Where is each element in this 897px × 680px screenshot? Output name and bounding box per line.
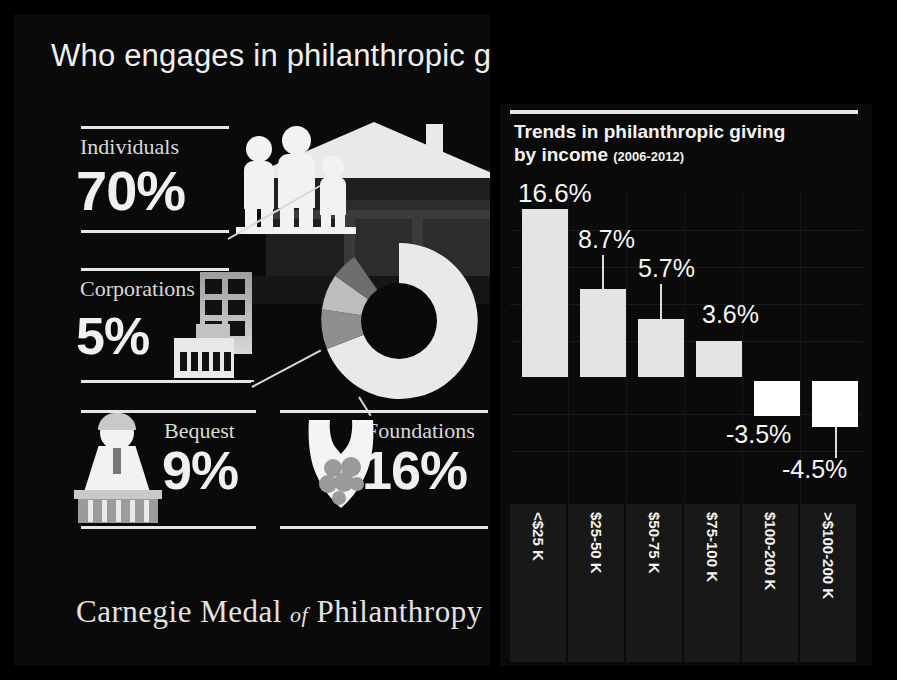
leader-line-gt-100-200k: [835, 426, 837, 458]
chart-title-line1: Trends in philanthropic giving: [514, 121, 785, 142]
left-panel: Who engages in philanthropic giving?: [14, 14, 490, 666]
infographic-canvas: Who engages in philanthropic giving?: [0, 0, 897, 680]
person-necktie: [113, 448, 121, 474]
bar-value-100-200k: -3.5%: [726, 420, 791, 449]
stat-value-bequest: 9%: [162, 439, 238, 501]
chart-title-line2: by income: [514, 144, 608, 165]
bar-value-gt-100-200k: -4.5%: [782, 455, 847, 484]
family-adult-right-leg-r: [299, 205, 313, 229]
divider-individuals-top: [81, 126, 229, 129]
building-door: [202, 352, 209, 371]
divider-chart-top: [510, 110, 858, 114]
podium-slat: [88, 500, 93, 522]
stat-label-individuals: Individuals: [80, 134, 179, 160]
brand-of: of: [290, 602, 308, 627]
building-window: [205, 300, 222, 315]
chart-panel: Trends in philanthropic givingby income …: [500, 104, 872, 666]
podium-slat: [130, 500, 135, 522]
donut-center-hole: [361, 283, 437, 359]
bar-75-100k: [696, 341, 742, 377]
vgridline: [742, 192, 743, 502]
leader-line-25-50k: [602, 255, 604, 291]
axis-label-50-75k: $50-75 K: [646, 512, 663, 574]
axis-label-gt-100-200k: >$100-200 K: [820, 512, 837, 599]
bar-lt-25k: [522, 209, 568, 377]
axis-cell-lt-25k: <$25 K: [510, 504, 568, 662]
podium-slat: [116, 500, 121, 522]
chart-title: Trends in philanthropic givingby income …: [514, 120, 854, 166]
bar-50-75k: [638, 319, 684, 377]
family-adult-left-head-icon: [246, 136, 272, 162]
family-ground-bar: [236, 227, 356, 234]
chart-period: (2006-2012): [613, 149, 684, 164]
axis-label-25-50k: $25-50 K: [588, 512, 605, 574]
bar-25-50k: [580, 289, 626, 377]
bar-gt-100-200k: [812, 381, 858, 427]
building-window: [228, 279, 245, 294]
bar-100-200k: [754, 381, 800, 416]
axis-label-lt-25k: <$25 K: [530, 512, 547, 561]
divider-corporations-top: [81, 268, 229, 271]
vgridline: [568, 192, 569, 502]
bar-chart-plot-area: 16.6% 8.7% 5.7% 3.6% -3.5% -4.5%: [510, 192, 862, 502]
divider-bequest-bottom: [81, 526, 256, 529]
axis-cell-gt-100-200k: >$100-200 K: [800, 504, 858, 662]
bar-value-lt-25k: 16.6%: [518, 178, 592, 209]
building-door: [213, 352, 220, 371]
axis-cell-25-50k: $25-50 K: [568, 504, 626, 662]
building-door: [191, 352, 198, 371]
brand-part2: Philanthropy: [316, 594, 482, 629]
stat-label-corporations: Corporations: [80, 276, 195, 302]
bar-value-75-100k: 3.6%: [702, 300, 759, 329]
family-adult-left-body-icon: [244, 161, 274, 209]
building-door: [180, 352, 187, 371]
bar-value-50-75k: 5.7%: [638, 254, 695, 283]
podium-slat: [144, 500, 149, 522]
house-chimney-icon: [426, 124, 443, 164]
gridline: [510, 414, 862, 415]
stat-value-foundations: 16%: [362, 439, 467, 501]
stat-value-corporations: 5%: [76, 306, 149, 366]
building-window: [228, 321, 245, 336]
building-window: [205, 279, 222, 294]
page-title: Who engages in philanthropic giving?: [51, 38, 490, 74]
podium-slat: [102, 500, 107, 522]
leader-line-50-75k: [660, 284, 662, 320]
podium-top: [74, 490, 162, 499]
family-adult-right-head-icon: [282, 126, 311, 155]
giving-sources-donut-chart: [317, 239, 481, 403]
chart-x-axis: <$25 K $25-50 K $50-75 K $75-100 K $100-…: [510, 504, 862, 662]
axis-cell-100-200k: $100-200 K: [742, 504, 800, 662]
brand-logo: Carnegie Medal of Philanthropy: [76, 594, 483, 630]
axis-label-100-200k: $100-200 K: [762, 512, 779, 590]
divider-bequest-top: [81, 410, 256, 413]
building-window: [228, 300, 245, 315]
axis-cell-75-100k: $75-100 K: [684, 504, 742, 662]
stat-value-individuals: 70%: [76, 158, 185, 223]
divider-corporations-bottom: [81, 380, 251, 383]
family-child-head-icon: [322, 156, 344, 178]
divider-foundations-bottom: [280, 526, 488, 529]
person-hair: [98, 413, 136, 430]
connector-corporations: [252, 349, 322, 387]
axis-cell-50-75k: $50-75 K: [626, 504, 684, 662]
gridline: [510, 451, 862, 452]
axis-label-75-100k: $75-100 K: [704, 512, 721, 582]
divider-foundations-top: [280, 410, 488, 413]
divider-individuals-bottom: [81, 230, 229, 233]
brand-part1: Carnegie Medal: [76, 594, 282, 629]
bar-value-25-50k: 8.7%: [578, 225, 635, 254]
hands-holding-coins-icon: [306, 418, 376, 510]
family-child-body-icon: [320, 177, 346, 215]
building-door: [224, 352, 231, 371]
vgridline: [684, 192, 685, 502]
